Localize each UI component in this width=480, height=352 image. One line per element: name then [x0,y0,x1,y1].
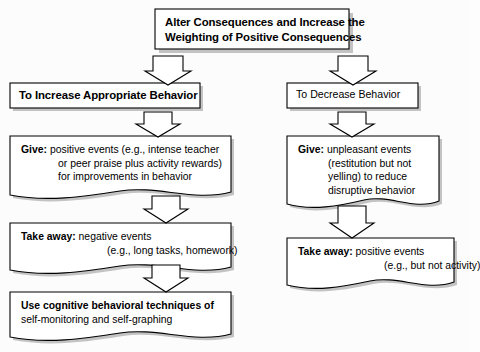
left-takeaway-line-2: (e.g., long tasks, homework) [107,245,238,256]
left-branch-header-label: To Increase Appropriate Behavior [10,83,200,103]
arrow-left-give-to-takeaway-icon [144,196,188,223]
left-takeaway-lead: Take away: [21,231,76,242]
arrow-left-header-to-give-icon [136,112,180,137]
right-step-give: Give: unpleasant events (restitution but… [287,136,439,204]
left-step-cognitive: Use cognitive behavioral techniques of s… [10,292,231,337]
right-takeaway-line-2: (e.g., but not activity) [384,260,480,271]
left-step-give: Give: positive events (e.g., intense tea… [10,136,231,195]
left-step-take-away: Take away: negative events (e.g., long t… [10,223,231,270]
left-give-line-3: for improvements in behavior [58,171,192,182]
left-step-cognitive-text: Use cognitive behavioral techniques of s… [10,292,231,326]
right-give-line-3: yelling) to reduce [328,171,407,182]
left-takeaway-line-1: negative events [76,231,152,242]
left-give-line-2: or peer praise plus activity rewards) [58,158,222,169]
right-step-take-away-text: Take away: positive events (e.g., but no… [287,238,454,272]
title-text: Alter Consequences and Increase the Weig… [155,9,349,45]
right-takeaway-line-1: positive events [353,246,425,257]
title-line-2: Weighting of Positive Consequences [165,31,361,43]
right-give-line-4: disruptive behavior [328,185,415,196]
left-cognitive-lead: Use cognitive behavioral techniques of [21,300,214,311]
right-give-line-1: unpleasant events [324,144,411,155]
left-give-lead: Give: [21,144,47,155]
arrow-right-header-to-give-icon [330,112,374,137]
right-give-line-2: (restitution but not [328,158,411,169]
left-step-give-text: Give: positive events (e.g., intense tea… [10,136,231,184]
right-step-give-text: Give: unpleasant events (restitution but… [287,136,439,197]
right-branch-header: To Decrease Behavior [287,83,418,108]
arrow-right-give-to-takeaway-icon [330,206,374,238]
arrow-title-to-right-header-icon [330,56,376,85]
arrow-title-to-left-header-icon [145,56,191,85]
title-box: Alter Consequences and Increase the Weig… [155,9,349,49]
left-branch-header: To Increase Appropriate Behavior [10,83,200,108]
right-takeaway-lead: Take away: [298,246,353,257]
left-give-line-1: positive events (e.g., intense teacher [47,144,219,155]
left-step-take-away-text: Take away: negative events (e.g., long t… [10,223,231,257]
right-give-lead: Give: [298,144,324,155]
left-cognitive-line-1: self-monitoring and self-graphing [21,314,172,325]
title-line-1: Alter Consequences and Increase the [165,16,365,28]
right-branch-header-label: To Decrease Behavior [287,83,418,102]
right-step-take-away: Take away: positive events (e.g., but no… [287,238,454,285]
